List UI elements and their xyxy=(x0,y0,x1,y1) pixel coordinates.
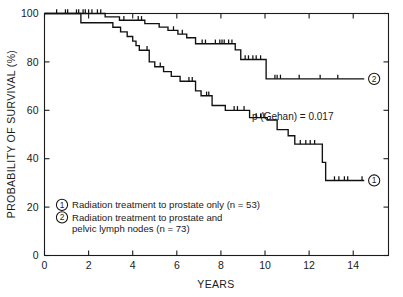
y-tick-label: 100 xyxy=(21,7,39,19)
p-value-annotation: p (Gehan) = 0.017 xyxy=(252,111,334,122)
legend-entry-text: Radiation treatment to prostate only (n … xyxy=(72,199,260,210)
curve-marker-label-2: 2 xyxy=(372,74,377,84)
x-tick-label: 10 xyxy=(259,259,271,271)
legend-entry-text: Radiation treatment to prostate and xyxy=(72,212,222,223)
x-tick-label: 8 xyxy=(218,259,224,271)
km-survival-figure: 02468101214 020406080100 12 p (Gehan) = … xyxy=(0,0,403,297)
y-tick-label: 40 xyxy=(27,152,39,164)
x-tick-label: 14 xyxy=(347,259,359,271)
y-tick-label: 60 xyxy=(27,104,39,116)
x-axis-title: YEARS xyxy=(197,278,234,290)
km-plot-svg: 02468101214 020406080100 12 p (Gehan) = … xyxy=(0,0,403,297)
curve-marker-label-1: 1 xyxy=(372,175,377,185)
y-axis-title: PROBABILITY OF SURVIVAL (%) xyxy=(5,50,17,218)
legend-marker-label-2: 2 xyxy=(60,212,65,222)
figure-background xyxy=(0,0,403,297)
x-tick-label: 4 xyxy=(130,259,136,271)
x-tick-label: 0 xyxy=(42,259,48,271)
x-tick-label: 2 xyxy=(86,259,92,271)
y-tick-label: 0 xyxy=(33,249,39,261)
legend-marker-label-1: 1 xyxy=(60,200,65,210)
x-tick-label: 6 xyxy=(174,259,180,271)
y-tick-label: 80 xyxy=(27,56,39,68)
y-tick-label: 20 xyxy=(27,201,39,213)
x-tick-label: 12 xyxy=(303,259,315,271)
legend-entry-text: pelvic lymph nodes (n = 73) xyxy=(72,223,190,234)
